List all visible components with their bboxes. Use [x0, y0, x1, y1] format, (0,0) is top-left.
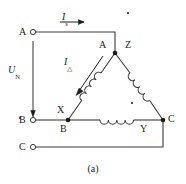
line-current-subscript: s: [65, 20, 68, 27]
terminal-label-a: A: [19, 27, 26, 37]
voltage-arrow-head: [31, 111, 36, 118]
delta-side-right-lower-lead: [150, 101, 163, 120]
node-label-left-upper-x: X: [57, 105, 64, 115]
phase-current-arrow-head: [76, 88, 83, 95]
current-arrow-line-head: [79, 20, 85, 25]
voltage-phasor-label: UN: [8, 60, 20, 79]
node-dot-apex: [113, 51, 118, 56]
terminal-b-circle: [30, 117, 35, 122]
terminal-label-c: C: [19, 142, 26, 152]
winding-coil-bottom: [100, 120, 134, 124]
node-label-apex-left-a: A: [99, 40, 106, 50]
delta-side-left-upper-lead: [101, 53, 115, 73]
node-label-bottom-right-y: Y: [140, 124, 147, 134]
delta-connection-circuit-figure: A B C A Z X B Y C Is I△ UN (a): [0, 0, 186, 184]
node-label-right-vertex-c: C: [168, 114, 175, 124]
node-dot-right-vertex: [161, 118, 166, 123]
node-dot-left-vertex: [66, 118, 71, 123]
terminal-a-circle: [30, 29, 35, 34]
voltage-dot-accent: [19, 117, 21, 119]
line-current-dot-accent: [127, 12, 129, 14]
terminal-c-circle: [30, 144, 35, 149]
node-label-apex-right-z: Z: [125, 40, 131, 50]
phase-current-arrow-shaft: [79, 56, 103, 91]
delta-side-left-lower-lead: [68, 100, 82, 120]
phase-current-subscript: △: [67, 65, 72, 72]
circuit-schematic-svg: [0, 0, 186, 184]
figure-caption: (a): [0, 163, 186, 174]
phase-current-phasor-label: I△: [64, 52, 72, 71]
voltage-subscript: N: [15, 73, 20, 80]
node-label-left-lower-b: B: [60, 124, 67, 134]
delta-side-right-upper-lead: [115, 53, 130, 73]
phase-current-dot-accent: [131, 102, 133, 104]
line-current-phasor-label: Is: [62, 7, 68, 26]
winding-coil-right: [127, 73, 150, 103]
